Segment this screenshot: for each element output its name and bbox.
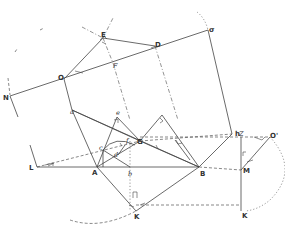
label-b: b	[128, 170, 132, 178]
label-e: e	[116, 109, 120, 117]
label-O-prime: O'	[270, 132, 278, 140]
line-a-A	[72, 110, 97, 167]
label-M: M	[243, 167, 250, 175]
line-E-left	[82, 27, 103, 38]
right-construction	[140, 137, 285, 211]
label-K-prime: K	[242, 212, 248, 220]
label-O: O	[58, 74, 64, 82]
line-N-down	[10, 96, 18, 117]
line-E-F	[103, 38, 113, 63]
label-Z: Z	[238, 130, 244, 138]
label-F: F	[112, 62, 118, 70]
arc-sigma-top	[197, 12, 208, 30]
line-N-sigma	[10, 30, 208, 96]
line-h-B	[199, 134, 232, 167]
label-L: L	[29, 164, 34, 172]
arc-right	[245, 137, 285, 211]
line-B-K	[136, 167, 199, 211]
labels: N O F D σ E a e h G f c d L A b B K Z O'…	[3, 26, 278, 221]
line-G-h-dashed	[140, 134, 232, 141]
line-sigma-h	[208, 30, 232, 134]
triangle-OED	[15, 18, 156, 79]
label-N: N	[3, 94, 9, 102]
label-d: d	[114, 151, 118, 159]
line-M-Oprime	[241, 137, 270, 170]
geometric-diagram: N O F D σ E a e h G f c d L A b B K Z O'…	[0, 0, 285, 227]
angle-marks-right	[243, 137, 265, 162]
label-a: a	[70, 108, 74, 116]
line-N-up-dashed	[8, 78, 10, 95]
label-D: D	[155, 41, 161, 49]
label-E: E	[101, 31, 106, 39]
central-construction	[37, 110, 232, 167]
base-line	[30, 141, 241, 211]
line-O-a	[64, 79, 72, 110]
line-D-down	[155, 46, 178, 120]
line-E-D	[103, 38, 155, 46]
label-B: B	[200, 170, 205, 178]
line-d-f	[118, 145, 125, 155]
arc-c-f	[103, 141, 135, 150]
label-K: K	[134, 213, 140, 221]
label-G: G	[137, 138, 143, 146]
stray-dashes	[15, 28, 44, 52]
label-A: A	[92, 169, 98, 177]
top-rectangle	[8, 12, 232, 134]
label-c: c	[99, 144, 103, 152]
angle-mark-L	[45, 163, 54, 166]
line-O-E	[64, 38, 103, 79]
label-sigma: σ	[209, 26, 215, 34]
arc-bottom-left	[70, 211, 136, 223]
